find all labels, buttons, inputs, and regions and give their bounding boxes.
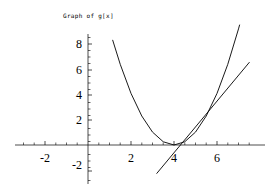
y-axis-minor-ticks bbox=[88, 38, 91, 181]
y-axis-major-ticks bbox=[88, 44, 92, 171]
x-tick-label: 4 bbox=[171, 152, 177, 164]
x-axis-minor-ticks bbox=[24, 143, 250, 146]
y-tick-label: -2 bbox=[64, 159, 82, 171]
x-tick-label: 2 bbox=[128, 152, 134, 164]
x-axis-major-ticks bbox=[45, 141, 217, 145]
curve-parabola bbox=[113, 25, 240, 145]
y-tick-label: 2 bbox=[68, 114, 82, 126]
plot-figure: Graph of g[x] bbox=[0, 0, 272, 190]
y-tick-label: 6 bbox=[68, 64, 82, 76]
x-tick-label: -2 bbox=[40, 152, 50, 164]
y-tick-label: 4 bbox=[68, 89, 82, 101]
y-tick-label: 8 bbox=[68, 38, 82, 50]
x-tick-label: 6 bbox=[214, 152, 220, 164]
